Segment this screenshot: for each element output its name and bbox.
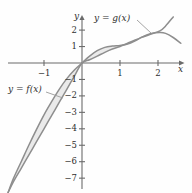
- y-tick-label: 2: [62, 25, 77, 35]
- y-tick-label: −1: [62, 74, 77, 84]
- y-axis-label: y: [74, 11, 79, 21]
- y-tick-label: −6: [62, 156, 77, 166]
- y-tick-label: −3: [62, 107, 77, 117]
- y-tick-label: −4: [62, 123, 77, 133]
- x-tick-label: 2: [152, 68, 164, 78]
- y-tick-label: −5: [62, 140, 77, 150]
- curve-label-g: y = g(x): [94, 13, 130, 23]
- x-tick-label: 1: [114, 68, 126, 78]
- function-plot: [0, 0, 192, 193]
- y-tick-label: 1: [62, 41, 77, 51]
- curve-label-f: y = f(x): [8, 84, 42, 94]
- x-axis-label: x: [178, 64, 183, 74]
- axis-layer: [8, 15, 185, 189]
- figure-canvas: y = g(x) y = f(x) x y −11221−1−2−3−4−5−6…: [0, 0, 192, 193]
- curve-layer: [8, 17, 181, 193]
- y-tick-label: −2: [62, 90, 77, 100]
- curve-g: [8, 17, 173, 193]
- y-tick-label: −7: [62, 173, 77, 183]
- x-tick-label: −1: [38, 68, 50, 78]
